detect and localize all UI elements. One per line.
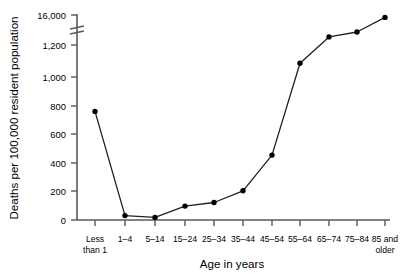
y-tick-label-800: 800 (50, 101, 66, 112)
x-tick-label-10-line2: older (375, 245, 394, 255)
chart-svg: 0 200 400 600 800 1,000 1,200 16,000 Les… (0, 0, 410, 276)
y-axis-title: Deaths per 100,000 resident population (7, 16, 20, 219)
y-tick-label-0: 0 (61, 215, 66, 226)
x-tick-label-10-line1: 85 and (372, 234, 399, 244)
data-point (182, 203, 187, 208)
x-tick-label-0-line1: Less (86, 234, 104, 244)
y-tick-label-600: 600 (50, 129, 66, 140)
data-point (354, 29, 359, 34)
x-tick-label-6: 45–54 (260, 234, 284, 244)
data-point (269, 152, 274, 157)
y-tick-label-16000: 16,000 (37, 10, 66, 21)
y-tick-label-1000: 1,000 (43, 72, 66, 83)
line-chart: 0 200 400 600 800 1,000 1,200 16,000 Les… (0, 0, 410, 276)
data-point (297, 61, 302, 66)
x-tick-label-9: 75–84 (345, 234, 369, 244)
data-point (152, 215, 157, 220)
y-tick-label-400: 400 (50, 158, 66, 169)
x-tick-label-8: 65–74 (317, 234, 341, 244)
data-point (122, 213, 127, 218)
x-tick-label-3: 15–24 (173, 234, 197, 244)
x-tick-label-4: 25–34 (202, 234, 226, 244)
data-point (240, 188, 245, 193)
x-tick-label-1: 1–4 (118, 234, 133, 244)
x-tick-label-7: 55–64 (288, 234, 312, 244)
y-tick-label-1200: 1,200 (43, 40, 66, 51)
data-point (382, 15, 387, 20)
data-series-line (95, 17, 385, 217)
x-tick-label-0-line2: than 1 (83, 245, 107, 255)
data-point (92, 109, 97, 114)
y-tick-label-200: 200 (50, 186, 66, 197)
x-tick-label-5: 35–44 (231, 234, 255, 244)
data-point-group (92, 15, 387, 220)
x-axis-title: Age in years (200, 257, 265, 270)
x-tick-label-2: 5–14 (145, 234, 164, 244)
data-point (211, 200, 216, 205)
data-point (326, 34, 331, 39)
